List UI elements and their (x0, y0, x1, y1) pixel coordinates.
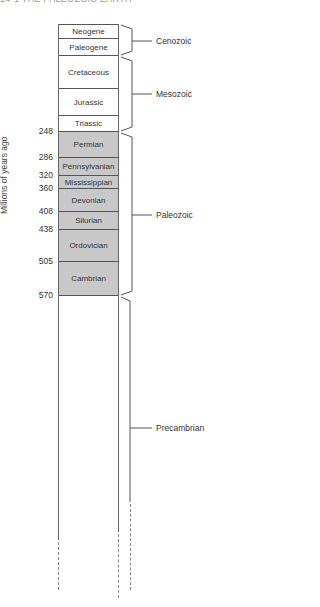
era-label-precambrian: Precambrian (156, 423, 204, 433)
cenozoic-brace (121, 25, 132, 55)
paleozoic-brace (121, 133, 132, 295)
era-label-paleozoic: Paleozoic (156, 210, 193, 220)
precambrian-brace (121, 297, 130, 502)
era-label-mesozoic: Mesozoic (156, 89, 192, 99)
mesozoic-brace (121, 57, 132, 131)
era-label-cenozoic: Cenozoic (156, 36, 191, 46)
